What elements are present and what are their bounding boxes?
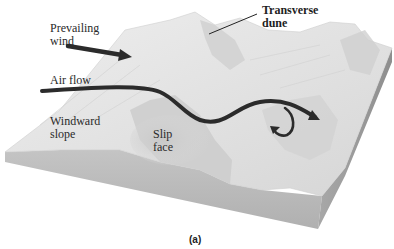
slip-face-label: Slip face [153,128,173,154]
transverse-dune-diagram: Prevailing wind Transverse dune Air flow… [0,0,394,249]
figure-caption: (a) [189,234,201,245]
windward-slope-label: Windward slope [50,115,100,141]
transverse-dune-label: Transverse dune [262,4,318,30]
prevailing-wind-label: Prevailing wind [50,22,99,48]
air-flow-label: Air flow [50,74,91,87]
